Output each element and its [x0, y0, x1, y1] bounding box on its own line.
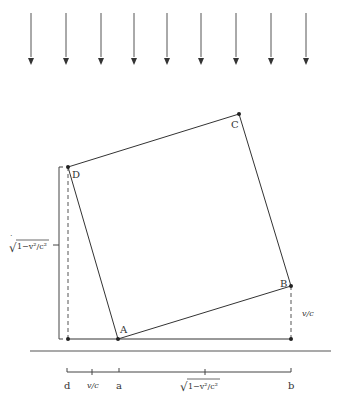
vertex-label-A: A — [119, 324, 128, 335]
arrow-down-icon — [63, 13, 69, 65]
arrow-down-icon — [268, 13, 274, 65]
axis-label-sqrt-expr: 1−v²/c² — [188, 382, 218, 391]
projection-dot-b — [289, 337, 293, 341]
vertex-dot-C — [237, 112, 241, 116]
bottom-axis — [67, 368, 291, 375]
arrow-down-icon — [164, 13, 170, 65]
light-rays — [28, 13, 309, 65]
axis-label-a: a — [116, 380, 122, 391]
left-dimension-dot: · — [10, 231, 13, 240]
projection-dot-d — [66, 337, 70, 341]
arrow-down-icon — [28, 13, 34, 65]
arrow-down-icon — [131, 13, 137, 65]
arrow-down-icon — [198, 13, 204, 65]
vertex-dot-A — [116, 337, 120, 341]
rotated-square — [68, 114, 291, 339]
axis-label-sqrt-symbol: √ — [180, 380, 188, 394]
left-dimension-label: 1−v²/c² — [17, 242, 47, 251]
vertex-label-C: C — [231, 119, 239, 130]
arrow-down-icon — [303, 13, 309, 65]
vertex-dot-D — [66, 165, 70, 169]
relativity-square-diagram: A B C D · √ 1−v²/c² v/c d v/c a √ 1−v²/c… — [0, 0, 341, 404]
vertex-label-B: B — [280, 278, 287, 289]
left-dimension-bracket — [53, 167, 63, 339]
arrow-down-icon — [98, 13, 104, 65]
axis-label-v-over-c: v/c — [87, 381, 99, 390]
vertex-label-D: D — [72, 169, 80, 180]
left-dimension-sqrt: √ — [9, 241, 17, 255]
right-dimension-label: v/c — [302, 309, 314, 318]
axis-label-d: d — [64, 380, 71, 391]
arrow-down-icon — [233, 13, 239, 65]
vertex-dot-B — [289, 284, 293, 288]
axis-label-b: b — [288, 380, 294, 391]
